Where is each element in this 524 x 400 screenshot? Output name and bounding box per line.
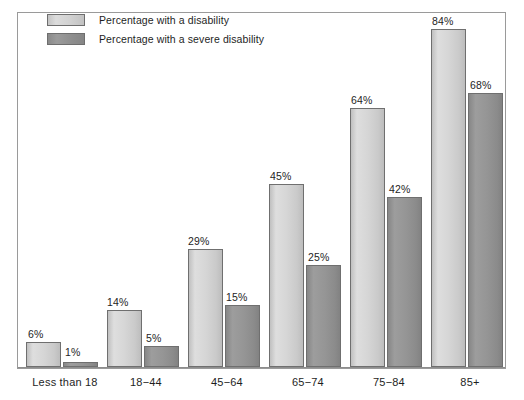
bar-dark (144, 346, 179, 367)
plot-area: 6% 1% 14% 5% 29% 15% 45% 25% 64% (18, 13, 505, 368)
bar-dark (306, 265, 341, 367)
bar-light (26, 342, 61, 367)
bar-group: 45% 25% (269, 17, 349, 367)
bar-value-label: 25% (308, 251, 330, 263)
bar-value-label: 68% (470, 79, 492, 91)
bar-dark (225, 305, 260, 367)
bar-value-label: 45% (270, 170, 292, 182)
bar-dark (387, 197, 422, 367)
bar-value-label: 5% (146, 332, 162, 344)
bar-value-label: 6% (28, 328, 44, 340)
x-tick-label-45-64: 45−64 (211, 376, 243, 388)
bar-group: 6% 1% (26, 17, 106, 367)
bar-dark (468, 93, 503, 367)
bar-chart: Percentage with a disability Percentage … (0, 0, 524, 400)
bar-value-label: 29% (188, 235, 210, 247)
x-tick-label-less-than-18: Less than 18 (32, 376, 97, 388)
x-tick-label-18-44: 18−44 (130, 376, 162, 388)
bar-value-label: 14% (107, 296, 129, 308)
bar-group: 14% 5% (107, 17, 187, 367)
x-tick-label-85-plus: 85+ (460, 376, 479, 388)
bar-light (431, 29, 466, 367)
bar-value-label: 15% (226, 291, 248, 303)
bar-value-label: 42% (389, 183, 411, 195)
bar-value-label: 1% (65, 346, 81, 358)
x-tick-label-65-74: 65−74 (292, 376, 324, 388)
bar-value-label: 64% (351, 94, 373, 106)
bar-light (269, 184, 304, 367)
bar-light (107, 310, 142, 367)
x-axis-baseline (18, 367, 505, 368)
bar-value-label: 84% (432, 15, 454, 27)
bar-light (188, 249, 223, 367)
bar-light (350, 108, 385, 367)
bar-group: 64% 42% (350, 17, 430, 367)
x-tick-label-75-84: 75−84 (373, 376, 405, 388)
bar-group: 29% 15% (188, 17, 268, 367)
bar-group: 84% 68% (431, 17, 511, 367)
